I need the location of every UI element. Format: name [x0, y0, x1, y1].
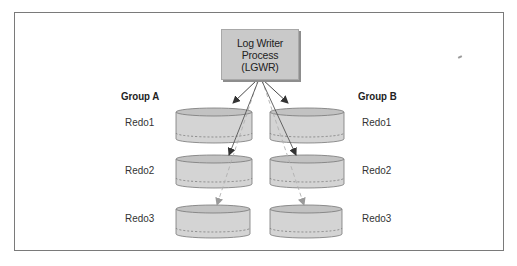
group-a-redo2-label: Redo2: [125, 164, 154, 176]
group-b-redo3-label: Redo3: [362, 212, 391, 224]
cylinder-group-a-redo3: [176, 205, 250, 238]
lgwr-process-box: Log Writer Process (LGWR): [221, 29, 299, 80]
cylinder-group-b-redo1: [270, 108, 344, 143]
cylinder-group-a-redo2: [176, 155, 252, 188]
group-b-redo2-label: Redo2: [362, 164, 391, 176]
group-b-redo1-label: Redo1: [362, 116, 391, 128]
cylinder-group-b-redo2: [270, 155, 344, 188]
group-a-redo1-label: Redo1: [125, 116, 154, 128]
process-title-line2: Process: [242, 49, 279, 61]
cylinder-group-b-redo3: [270, 205, 342, 238]
process-title-line1: Log Writer: [237, 37, 283, 49]
group-a-label: Group A: [121, 90, 159, 102]
group-a-redo3-label: Redo3: [125, 212, 154, 224]
group-b-label: Group B: [358, 90, 397, 102]
process-title-line3: (LGWR): [241, 61, 278, 73]
